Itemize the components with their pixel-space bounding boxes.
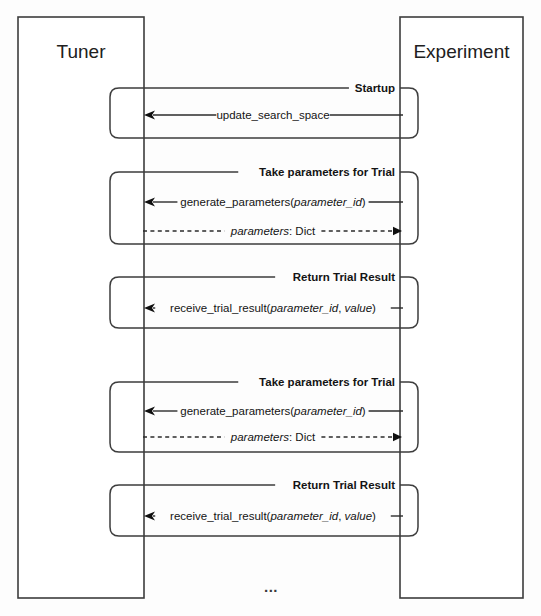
message-1-1: parameters: Dict: [143, 225, 402, 237]
fragment-2: Return Trial Result: [110, 271, 418, 328]
participant-label-experiment: Experiment: [413, 41, 510, 62]
fragment-label: Take parameters for Trial: [259, 376, 395, 388]
sequence-diagram-svg: TunerExperiment StartupTake parameters f…: [0, 0, 541, 616]
message-label: parameters: Dict: [230, 431, 316, 443]
continuation-layer: ...: [264, 578, 278, 595]
message-label: generate_parameters(parameter_id): [180, 405, 366, 417]
participant-box-tuner[interactable]: [18, 17, 144, 598]
fragment-label: Return Trial Result: [293, 479, 395, 491]
continuation-ellipsis: ...: [264, 578, 278, 595]
message-4-0: receive_trial_result(parameter_id, value…: [144, 510, 403, 522]
fragment-label: Return Trial Result: [293, 271, 395, 283]
fragment-4: Return Trial Result: [110, 479, 418, 536]
fragment-label: Take parameters for Trial: [259, 166, 395, 178]
message-3-0: generate_parameters(parameter_id): [144, 405, 403, 417]
message-2-0: receive_trial_result(parameter_id, value…: [144, 302, 403, 314]
participant-tuner: Tuner: [18, 17, 144, 598]
message-3-1: parameters: Dict: [143, 431, 402, 443]
message-label: receive_trial_result(parameter_id, value…: [170, 510, 376, 522]
message-label: parameters: Dict: [230, 225, 316, 237]
fragment-label: Startup: [355, 82, 395, 94]
sequence-diagram-canvas: TunerExperiment StartupTake parameters f…: [0, 0, 541, 616]
message-label: update_search_space: [216, 109, 329, 121]
message-label: receive_trial_result(parameter_id, value…: [170, 302, 376, 314]
participant-label-tuner: Tuner: [57, 41, 107, 62]
message-1-0: generate_parameters(parameter_id): [144, 196, 403, 208]
message-label: generate_parameters(parameter_id): [180, 196, 366, 208]
message-0-0: update_search_space: [144, 109, 403, 121]
